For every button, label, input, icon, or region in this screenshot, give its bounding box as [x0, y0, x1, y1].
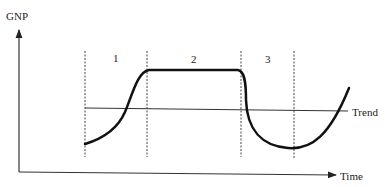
- business-cycle-diagram: GNP Time Trend 1 2 3: [0, 0, 390, 187]
- phase-label-3: 3: [265, 53, 271, 65]
- trend-label: Trend: [352, 106, 378, 118]
- phase-label-2: 2: [191, 53, 197, 65]
- x-axis: [19, 172, 336, 175]
- y-axis-label: GNP: [6, 10, 28, 22]
- phase-label-1: 1: [113, 52, 119, 64]
- x-axis-label: Time: [340, 170, 363, 182]
